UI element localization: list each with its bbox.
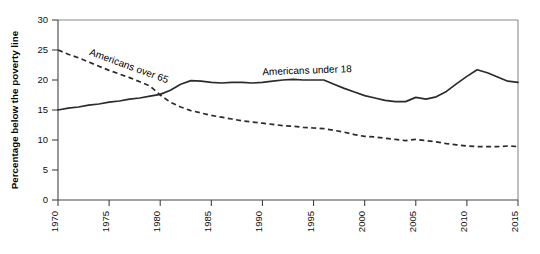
y-tick-label: 25 bbox=[37, 44, 48, 55]
x-tick-label: 2015 bbox=[509, 211, 520, 232]
x-tick-label: 1980 bbox=[151, 211, 162, 232]
poverty-line-chart: 051015202530 197019751980198519901995200… bbox=[0, 0, 540, 254]
y-tick-label: 0 bbox=[43, 194, 48, 205]
x-tick-label: 2010 bbox=[458, 211, 469, 232]
x-tick-label: 1990 bbox=[253, 211, 264, 232]
y-axis-ticks: 051015202530 bbox=[37, 14, 58, 205]
series-label-americans-over-65: Americans over 65 bbox=[88, 46, 171, 85]
y-tick-label: 30 bbox=[37, 14, 48, 25]
y-tick-label: 5 bbox=[43, 164, 48, 175]
x-tick-label: 1985 bbox=[202, 211, 213, 232]
plot-frame bbox=[58, 20, 518, 200]
y-axis-title: Percentage below the poverty line bbox=[9, 30, 20, 189]
series-label-americans-under-18: Americans under 18 bbox=[262, 63, 352, 77]
y-tick-label: 20 bbox=[37, 74, 48, 85]
x-tick-label: 2005 bbox=[407, 211, 418, 232]
axes bbox=[58, 20, 518, 200]
y-tick-label: 15 bbox=[37, 104, 48, 115]
y-tick-label: 10 bbox=[37, 134, 48, 145]
x-tick-label: 2000 bbox=[356, 211, 367, 232]
chart-canvas: 051015202530 197019751980198519901995200… bbox=[0, 0, 540, 254]
x-tick-label: 1995 bbox=[305, 211, 316, 232]
x-tick-label: 1970 bbox=[49, 211, 60, 232]
x-tick-label: 1975 bbox=[100, 211, 111, 232]
x-axis-ticks: 1970197519801985199019952000200520102015 bbox=[49, 200, 520, 232]
